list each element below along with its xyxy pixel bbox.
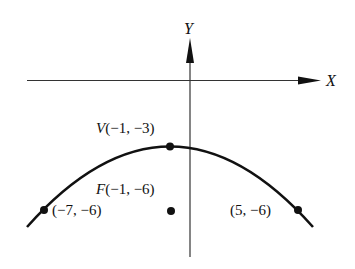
left-point-label: (−7, −6) [52, 202, 101, 219]
y-axis-arrow-icon [186, 38, 194, 63]
vertex-coords: (−1, −3) [105, 120, 154, 137]
parabola-diagram: X Y V(−1, −3) F(−1, −6) (−7, −6) (5, −6) [0, 0, 355, 269]
focus-label: F(−1, −6) [95, 181, 155, 198]
focus-point [167, 207, 175, 215]
left-point [40, 206, 48, 214]
y-axis: Y [184, 20, 195, 257]
right-point-label: (5, −6) [230, 202, 271, 219]
x-axis-label: X [325, 72, 337, 89]
right-point [294, 206, 302, 214]
x-axis: X [27, 72, 337, 89]
vertex-point [166, 143, 174, 151]
x-axis-arrow-icon [298, 77, 321, 85]
y-axis-label: Y [184, 20, 195, 37]
focus: F(−1, −6) [95, 181, 175, 215]
focus-coords: (−1, −6) [105, 181, 154, 198]
vertex-label: V(−1, −3) [96, 120, 155, 137]
